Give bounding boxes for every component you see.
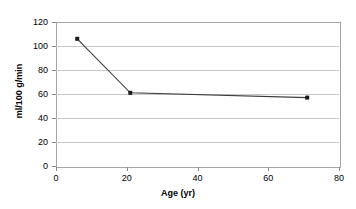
data-point-marker [75, 37, 79, 41]
x-axis-title: Age (yr) [0, 188, 356, 198]
series-line-cerebral-blood-flow [77, 39, 307, 98]
y-axis-title: ml/100 g/min [14, 36, 24, 146]
series-markers [75, 37, 309, 100]
chart-container: 020406080100120 020406080 Age (yr) ml/10… [0, 0, 356, 209]
series-layer [0, 0, 356, 209]
data-point-marker [305, 96, 309, 100]
data-point-marker [128, 91, 132, 95]
